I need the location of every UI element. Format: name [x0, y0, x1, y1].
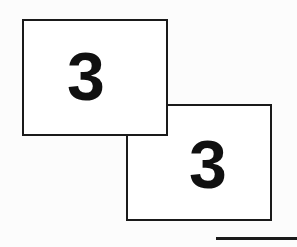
card-back-value: 3 — [189, 130, 227, 198]
card-front[interactable]: 3 — [22, 19, 168, 136]
horizontal-rule — [216, 237, 297, 240]
scan-sheet: 3 3 — [0, 0, 297, 247]
card-front-value: 3 — [67, 42, 105, 110]
